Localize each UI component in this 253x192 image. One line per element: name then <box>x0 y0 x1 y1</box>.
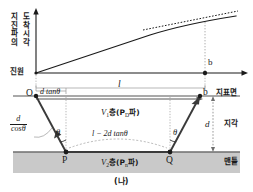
graph-yaxis-label-left: 지진파의 <box>10 13 19 47</box>
travel-time-curve <box>36 16 236 73</box>
offset-dtan-label: d tanθ <box>40 88 60 96</box>
downgoing-ray-OP <box>36 96 66 152</box>
graph-origin-label: 진원 <box>10 68 24 76</box>
graph-origin-marker <box>34 71 37 74</box>
graph-point-b-marker <box>203 71 207 75</box>
distance-l-label: l <box>118 80 121 90</box>
slant-length-leader <box>34 128 52 137</box>
angle-left-theta-label: θ <box>56 128 60 137</box>
node-O-marker <box>34 94 38 98</box>
upgoing-ray-arrowhead <box>192 97 200 105</box>
angle-right-theta-label: θ <box>173 128 177 137</box>
slant-length-denominator: cosθ <box>10 125 27 133</box>
graph-x-axis-arrowhead <box>242 70 249 75</box>
node-b-marker <box>198 94 202 98</box>
graph-y-axis-arrowhead <box>33 8 38 15</box>
upgoing-ray-Qb <box>170 96 200 152</box>
surface-label: 지표면 <box>216 89 237 97</box>
seismic-refraction-figure: 지진파의 도착시각 진원 b l O d tanθ b 지표면 지각 맨틀 d … <box>0 0 253 192</box>
tangent-dashed-line <box>143 11 238 30</box>
travel-time-graph <box>33 8 248 76</box>
graph-point-b-label: b <box>208 58 213 67</box>
base-span-dashed-arc <box>69 139 167 148</box>
base-span-label: l − 2d tanθ <box>92 130 128 138</box>
layer1-layer-text-end: 파) <box>129 108 139 117</box>
node-Q-label: Q <box>166 156 173 166</box>
node-Q-marker <box>168 150 173 155</box>
layer2-layer-text-end: 파) <box>128 158 138 167</box>
figure-caption: (나) <box>114 178 128 186</box>
crust-label: 지각 <box>224 120 238 128</box>
node-b-label: b <box>203 88 208 98</box>
layer1-velocity-label: V1층(PD파) <box>101 108 140 118</box>
slant-length-numerator: d <box>10 115 27 123</box>
layer1-layer-text: 층(P <box>109 108 125 117</box>
layer2-velocity-label: V2층(Pn파) <box>101 158 138 168</box>
mantle-label: 맨틀 <box>224 158 238 166</box>
depth-arrow-top <box>211 96 215 101</box>
depth-d-label: d <box>205 120 210 129</box>
depth-arrow-bottom <box>211 147 215 152</box>
slant-length-fraction: d cosθ <box>10 115 27 134</box>
node-P-label: P <box>62 156 67 166</box>
layer2-layer-text: 층(P <box>109 158 125 167</box>
node-P-marker <box>64 150 69 155</box>
node-O-label: O <box>26 89 33 99</box>
graph-yaxis-label-right: 도착시각 <box>22 13 31 47</box>
